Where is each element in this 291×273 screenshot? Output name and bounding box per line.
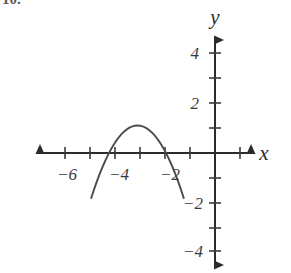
y-tick-label--2: −2 (183, 194, 203, 213)
y-tick-label-2: 2 (191, 94, 200, 113)
y-axis-label: y (208, 5, 220, 29)
coordinate-plane: x y −6 −4 −2 4 2 −2 −4 (0, 0, 291, 273)
parabola-curve (91, 126, 184, 199)
y-tick-label--4: −4 (183, 242, 203, 261)
x-tick-label--4: −4 (109, 165, 129, 184)
graph-figure: 10. (0, 0, 291, 273)
x-tick-label--6: −6 (57, 165, 77, 184)
y-tick-label-4: 4 (191, 44, 200, 63)
x-axis-label: x (258, 141, 269, 165)
x-tick-label--2: −2 (160, 165, 180, 184)
